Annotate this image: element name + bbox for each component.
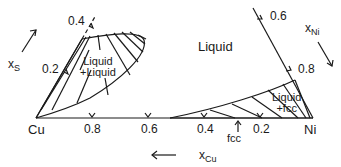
- xs-arrow: [22, 30, 36, 52]
- axis-label-xs: xS: [8, 58, 20, 73]
- axis-label-xcu: xCu: [199, 149, 217, 164]
- tick-mark: [89, 113, 95, 117]
- phase-diagram-lines: [0, 0, 341, 167]
- fcc-annotation: fcc: [227, 133, 241, 144]
- xcu-tick-0.2: 0.2: [253, 123, 270, 135]
- region-liquid-liquid: Liquid +Liquid: [80, 56, 116, 78]
- xcu-tick-0.8: 0.8: [84, 123, 101, 135]
- tick-mark: [286, 66, 291, 71]
- region-liquid-fcc: Liquid +fcc: [272, 92, 301, 114]
- vertex-ni: Ni: [304, 123, 316, 136]
- region-liquid-fcc-line2: +fcc: [272, 103, 301, 114]
- axis-label-xni: xNi: [305, 22, 320, 37]
- tie-line: [98, 35, 100, 50]
- axis-subscript: Cu: [205, 154, 217, 164]
- tick-mark: [201, 113, 207, 117]
- vertex-cu: Cu: [28, 123, 45, 136]
- xs-tick-0.2: 0.2: [42, 63, 59, 75]
- region-liquid-liquid-line2: +Liquid: [80, 67, 116, 78]
- axis-subscript: S: [14, 63, 20, 73]
- xs-tick-0.4: 0.4: [68, 15, 85, 27]
- tie-line: [210, 110, 235, 118]
- xni-tick-0.6: 0.6: [270, 10, 287, 22]
- xni-arrow: [318, 42, 332, 66]
- phase-diagram: Cu Ni Liquid Liquid +Liquid Liquid +fcc …: [0, 0, 341, 167]
- tie-line: [114, 33, 138, 62]
- xcu-tick-0.4: 0.4: [197, 123, 214, 135]
- tie-line: [122, 32, 143, 52]
- axis-subscript: Ni: [311, 27, 320, 37]
- tick-mark: [145, 113, 151, 117]
- xni-tick-0.8: 0.8: [298, 63, 315, 75]
- tie-line: [138, 35, 146, 39]
- region-liquid: Liquid: [198, 40, 233, 53]
- xcu-tick-0.6: 0.6: [141, 123, 158, 135]
- tie-line: [232, 104, 262, 118]
